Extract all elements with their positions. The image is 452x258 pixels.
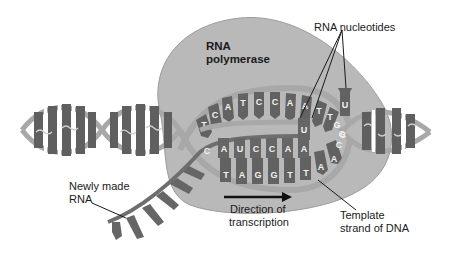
svg-text:A: A: [301, 144, 308, 154]
svg-text:A: A: [331, 154, 338, 164]
svg-text:T: T: [287, 170, 293, 180]
svg-text:U: U: [342, 100, 349, 110]
svg-text:A: A: [287, 98, 294, 108]
svg-text:T: T: [327, 112, 333, 122]
svg-text:T: T: [223, 170, 229, 180]
svg-text:C: C: [269, 144, 276, 154]
svg-text:A: A: [239, 170, 246, 180]
svg-text:T: T: [316, 106, 322, 116]
svg-text:C: C: [256, 97, 263, 107]
free-rna-nucleotide: U: [338, 88, 352, 116]
svg-text:C: C: [272, 97, 279, 107]
svg-text:G: G: [270, 170, 277, 180]
svg-text:C: C: [340, 130, 347, 140]
direction-label-line1: Direction of: [230, 203, 286, 215]
rna-polymerase-label-line1: RNA: [206, 40, 231, 52]
newly-made-rna-label-line2: RNA: [69, 193, 92, 205]
rna-nucleotides-label: RNA nucleotides: [314, 21, 395, 33]
template-strand-label-line2: strand of DNA: [340, 222, 409, 234]
svg-text:G: G: [254, 170, 261, 180]
direction-label-line2: transcription: [229, 216, 289, 228]
dna-double-helix-left: [22, 104, 180, 156]
svg-text:A: A: [285, 144, 292, 154]
svg-text:A: A: [225, 102, 232, 112]
svg-text:C: C: [336, 140, 343, 150]
svg-text:T: T: [240, 98, 246, 108]
svg-text:C: C: [204, 146, 211, 156]
svg-text:C: C: [253, 144, 260, 154]
svg-text:T: T: [303, 168, 309, 178]
newly-made-rna-label-line1: Newly made: [69, 180, 130, 192]
rna-polymerase-label-line2: polymerase: [206, 53, 270, 65]
svg-text:U: U: [301, 125, 308, 135]
svg-text:A: A: [221, 144, 228, 154]
svg-text:C: C: [212, 110, 219, 120]
template-strand-label-line1: Template: [340, 209, 385, 221]
svg-text:A: A: [318, 162, 325, 172]
svg-text:U: U: [237, 144, 244, 154]
